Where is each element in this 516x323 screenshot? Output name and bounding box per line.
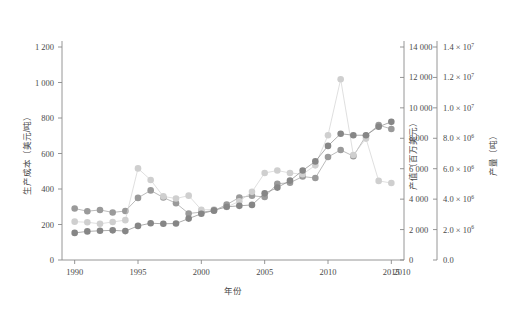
right-axis-2-tick-label: 2.0 × 106 bbox=[443, 224, 474, 234]
x-axis-extra-label: 2010 bbox=[394, 267, 411, 277]
data-point bbox=[287, 170, 294, 177]
left-axis-title: 生产成本（美元/吨） bbox=[22, 112, 32, 195]
data-point bbox=[337, 76, 344, 83]
data-point bbox=[325, 143, 332, 150]
left-axis-tick-label: 0 bbox=[50, 255, 54, 265]
data-point bbox=[122, 217, 129, 224]
series-line-0 bbox=[75, 125, 392, 213]
series-line-2 bbox=[75, 122, 392, 233]
right-axis-2-tick-label: 0.0 bbox=[443, 255, 454, 265]
data-point bbox=[261, 190, 268, 197]
right-axis-2-title: 产量（吨） bbox=[488, 131, 498, 176]
chart-figure: 199019952000200520102015年份20100200400600… bbox=[0, 0, 516, 323]
right-axis-2-tick-label: 6.0 × 106 bbox=[443, 164, 474, 174]
right-axis-1-tick-label: 0 bbox=[409, 255, 413, 265]
data-point bbox=[97, 207, 104, 214]
data-point bbox=[135, 223, 142, 230]
left-axis-tick-label: 200 bbox=[41, 220, 54, 230]
data-point bbox=[363, 132, 370, 139]
data-point bbox=[147, 177, 154, 184]
data-point bbox=[312, 175, 319, 182]
data-point bbox=[375, 178, 382, 185]
data-point bbox=[337, 130, 344, 137]
data-point bbox=[185, 192, 192, 199]
right-axis-1-tick-label: 14 000 bbox=[409, 42, 432, 52]
data-point bbox=[160, 220, 167, 227]
data-point bbox=[84, 219, 91, 226]
data-point bbox=[274, 184, 281, 191]
data-point bbox=[337, 147, 344, 154]
data-point bbox=[84, 208, 91, 215]
right-axis-2-tick-label: 4.0 × 106 bbox=[443, 194, 474, 204]
data-point bbox=[135, 195, 142, 202]
data-point bbox=[173, 220, 180, 227]
right-axis-1-tick-label: 10 000 bbox=[409, 103, 432, 113]
data-point bbox=[287, 177, 294, 184]
data-point bbox=[236, 203, 243, 210]
data-point bbox=[109, 209, 116, 216]
chart-canvas: 199019952000200520102015年份20100200400600… bbox=[0, 0, 516, 323]
data-point bbox=[274, 167, 281, 174]
data-point bbox=[97, 220, 104, 227]
right-axis-1-tick-label: 4 000 bbox=[409, 194, 428, 204]
data-point bbox=[375, 123, 382, 130]
data-point bbox=[147, 187, 154, 194]
x-axis-tick-label: 1990 bbox=[66, 267, 83, 277]
data-point bbox=[160, 193, 167, 200]
data-point bbox=[211, 207, 218, 214]
data-point bbox=[388, 119, 395, 126]
data-point bbox=[388, 126, 395, 133]
data-point bbox=[325, 132, 332, 139]
data-point bbox=[147, 220, 154, 227]
left-axis-tick-label: 600 bbox=[41, 149, 54, 159]
left-axis-tick-label: 1 000 bbox=[35, 78, 54, 88]
x-axis-tick-label: 2010 bbox=[320, 267, 337, 277]
data-point bbox=[261, 170, 268, 177]
right-axis-2-tick-label: 1.4 × 107 bbox=[443, 42, 474, 52]
data-point bbox=[71, 218, 78, 225]
data-point bbox=[388, 180, 395, 187]
right-axis-1-title: 产值（百万美元） bbox=[408, 118, 418, 190]
data-point bbox=[109, 219, 116, 226]
right-axis-1-tick-label: 2 000 bbox=[409, 225, 428, 235]
x-axis-tick-label: 2005 bbox=[256, 267, 273, 277]
data-point bbox=[173, 195, 180, 202]
right-axis-1-tick-label: 12 000 bbox=[409, 72, 432, 82]
data-point bbox=[350, 132, 357, 139]
data-point bbox=[109, 227, 116, 234]
data-point bbox=[325, 154, 332, 161]
data-point bbox=[223, 203, 230, 210]
data-point bbox=[198, 210, 205, 217]
right-axis-2-tick-label: 1.2 × 107 bbox=[443, 72, 474, 82]
data-point bbox=[97, 227, 104, 234]
data-point bbox=[249, 202, 256, 209]
data-point bbox=[312, 158, 319, 165]
data-point bbox=[71, 205, 78, 212]
right-axis-2-tick-label: 1.0 × 107 bbox=[443, 103, 474, 113]
data-point bbox=[350, 152, 357, 159]
x-axis-title: 年份 bbox=[224, 286, 242, 296]
left-axis-tick-label: 400 bbox=[41, 184, 54, 194]
left-axis-tick-label: 800 bbox=[41, 113, 54, 123]
right-axis-2-tick-label: 8.0 × 106 bbox=[443, 133, 474, 143]
data-point bbox=[249, 189, 256, 196]
data-point bbox=[84, 228, 91, 235]
data-point bbox=[122, 228, 129, 235]
x-axis-tick-label: 1995 bbox=[130, 267, 147, 277]
x-axis-tick-label: 2000 bbox=[193, 267, 210, 277]
data-point bbox=[299, 167, 306, 174]
data-point bbox=[71, 230, 78, 237]
data-point bbox=[135, 165, 142, 172]
data-point bbox=[185, 215, 192, 222]
left-axis-tick-label: 1 200 bbox=[35, 42, 54, 52]
